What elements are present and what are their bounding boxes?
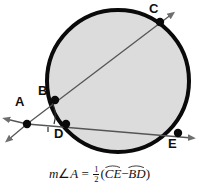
formula-caption: m∠A = 12(CE−BD) xyxy=(0,164,199,183)
point-label-c: C xyxy=(149,2,158,15)
point-dot-a xyxy=(23,120,31,128)
formula-equals: = xyxy=(82,166,89,181)
arc-term-ce-text: CE xyxy=(105,166,122,181)
arc-term-bd: BD xyxy=(128,164,145,182)
point-label-d: D xyxy=(54,127,63,140)
arc-term-ce: CE xyxy=(105,164,122,182)
formula-operator: − xyxy=(121,166,128,182)
geometry-figure: A B C D E m∠A = 12(CE−BD) xyxy=(0,0,199,195)
formula-vertex: A xyxy=(70,166,78,181)
point-dot-b xyxy=(51,96,59,104)
arc-overbar-bd xyxy=(128,164,144,168)
fraction-numerator: 1 xyxy=(93,165,99,174)
fraction-denominator: 2 xyxy=(93,174,99,184)
point-label-b: B xyxy=(38,84,47,97)
circle-shape xyxy=(47,10,189,152)
formula-one-half: 12 xyxy=(93,165,99,184)
point-label-e: E xyxy=(168,137,177,150)
arc-overbar-ce xyxy=(105,164,121,168)
formula-close-paren: ) xyxy=(146,166,150,181)
arc-term-bd-text: BD xyxy=(128,166,145,181)
point-dot-c xyxy=(156,18,164,26)
formula-angle-symbol: ∠ xyxy=(58,166,70,181)
formula-m: m xyxy=(49,166,58,181)
point-label-a: A xyxy=(15,95,24,108)
